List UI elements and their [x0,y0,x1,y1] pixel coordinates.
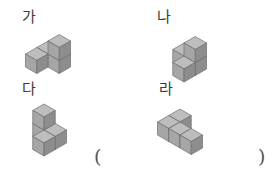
figure-option-da[interactable]: 다 [0,76,140,148]
iso-cube-stack-na [140,2,280,74]
iso-cube-stack-da [0,76,140,148]
figure-option-na[interactable]: 나 [140,2,280,74]
figure-option-ga[interactable]: 가 [0,2,140,74]
answer-open-paren: ( [94,147,101,166]
iso-cube-svg [0,76,140,148]
iso-cube-stack-ra [140,76,280,148]
iso-cube-svg [140,2,280,74]
iso-cube-svg [0,2,140,74]
figure-choices-grid: 가 나 다 라 [0,0,280,145]
answer-row: ( ) [0,145,280,177]
iso-cube-svg [140,76,280,148]
figure-option-ra[interactable]: 라 [140,76,280,148]
iso-cube-stack-ga [0,2,140,74]
answer-close-paren: ) [258,147,265,166]
